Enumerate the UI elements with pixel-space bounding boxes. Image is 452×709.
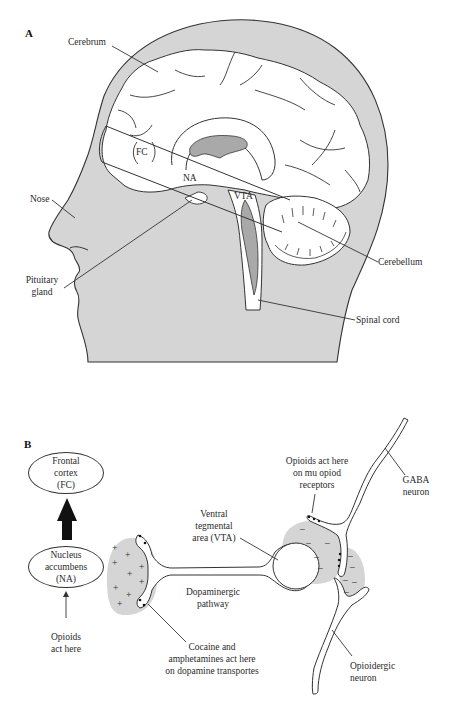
fc-line1: Frontal [52, 455, 79, 467]
mu-line3: receptors [276, 479, 358, 491]
minus-sign: – [306, 537, 311, 549]
minus-sign: – [352, 576, 357, 588]
cocaine-line2: amphetamines act here [156, 653, 268, 665]
cocaine-line3: on dopamine transportes [156, 665, 268, 677]
opioids-na-line2: act here [40, 643, 92, 655]
frontal-cortex-node: Frontal cortex (FC) [28, 452, 104, 494]
label-fc: FC [136, 146, 148, 158]
gaba-line2: neuron [396, 486, 436, 498]
plus-sign: + [125, 549, 130, 561]
mu-line1: Opioids act here [276, 455, 358, 467]
pathway-line1: Dopaminergic [180, 586, 246, 598]
plus-sign: + [112, 542, 117, 554]
fc-line2: cortex [52, 467, 79, 479]
minus-sign: – [318, 562, 323, 574]
label-pituitary-gland: Pituitary gland [22, 274, 62, 298]
plus-sign: + [139, 561, 144, 573]
label-opioidergic-neuron: Opioidergic neuron [350, 660, 395, 684]
label-pituitary-line1: Pituitary [22, 274, 62, 286]
plus-sign: + [127, 568, 132, 580]
label-cerebrum: Cerebrum [68, 36, 106, 48]
minus-sign: – [343, 574, 348, 586]
nucleus-accumbens-node: Nucleus accumbens (NA) [28, 546, 104, 588]
plus-sign: + [126, 589, 131, 601]
big-arrow-head [57, 498, 77, 521]
label-opioids-act-here: Opioids act here [40, 631, 92, 655]
panel-b-label: B [24, 438, 31, 450]
plus-sign: + [117, 598, 122, 610]
small-arrow-head [63, 591, 69, 597]
panel-a-label: A [25, 27, 33, 39]
opioidergic-line1: Opioidergic [350, 660, 395, 672]
minus-sign: – [300, 523, 305, 535]
plus-sign: + [113, 582, 118, 594]
plus-sign: + [139, 576, 144, 588]
na-line1: Nucleus [45, 549, 87, 561]
vta-line2: tegmental [184, 520, 244, 532]
fc-line3: (FC) [52, 479, 79, 491]
na-line2: accumbens [45, 561, 87, 573]
label-na: NA [183, 172, 197, 184]
big-arrow-shaft [62, 520, 72, 540]
vta-line1: Ventral [184, 508, 244, 520]
minus-sign: – [325, 537, 330, 549]
minus-sign: – [350, 561, 355, 573]
pathway-line2: pathway [180, 598, 246, 610]
cocaine-line1: Cocaine and [156, 641, 268, 653]
minus-sign: – [344, 586, 349, 598]
label-pituitary-line2: gland [22, 286, 62, 298]
label-cerebellum: Cerebellum [378, 256, 422, 268]
gaba-line1: GABA [396, 474, 436, 486]
label-nose: Nose [30, 193, 50, 205]
label-vta-b: Ventral tegmental area (VTA) [184, 508, 244, 544]
opioidergic-line2: neuron [350, 672, 395, 684]
label-gaba-neuron: GABA neuron [396, 474, 436, 498]
opioids-na-line1: Opioids [40, 631, 92, 643]
na-line3: (NA) [45, 573, 87, 585]
label-vta: VTA [234, 190, 253, 202]
vta-line3: area (VTA) [184, 532, 244, 544]
vta-soma [273, 543, 319, 589]
label-spinal-cord: Spinal cord [356, 314, 400, 326]
label-dopaminergic-pathway: Dopaminergic pathway [180, 586, 246, 610]
label-cocaine-amphetamines: Cocaine and amphetamines act here on dop… [156, 641, 268, 677]
mu-line2: on mu opiod [276, 467, 358, 479]
label-mu-receptors: Opioids act here on mu opiod receptors [276, 455, 358, 491]
plus-sign: + [112, 557, 117, 569]
